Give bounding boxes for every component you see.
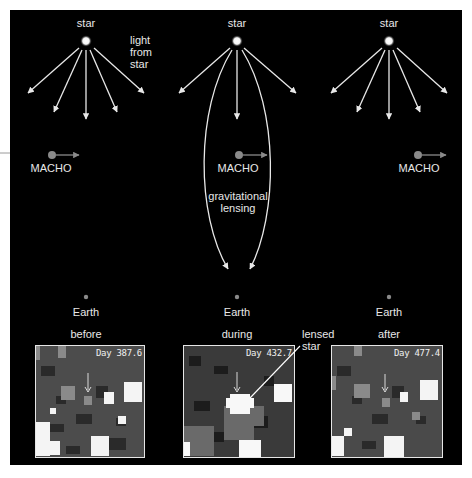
star-label-after: star xyxy=(373,17,405,30)
earth-icon xyxy=(84,295,88,299)
star-icon xyxy=(231,35,243,47)
light-from-star-note: light from star xyxy=(130,34,160,70)
phase-label-during: during xyxy=(211,328,263,341)
day-label-before: Day 387.6 xyxy=(96,348,142,358)
starfield-after xyxy=(332,346,442,457)
day-label-after: Day 477.4 xyxy=(394,348,440,358)
starfield-before xyxy=(36,346,144,457)
observation-image-before: Day 387.6 xyxy=(35,345,145,458)
earth-label-during: Earth xyxy=(217,306,257,319)
macho-icon xyxy=(235,151,243,159)
star-label-before: star xyxy=(70,17,102,30)
phase-label-before: before xyxy=(60,328,112,341)
phase-label-after: after xyxy=(363,328,415,341)
earth-label-after: Earth xyxy=(369,306,409,319)
observation-image-after: Day 477.4 xyxy=(331,345,443,458)
macho-label-after: MACHO xyxy=(394,162,444,175)
macho-icon xyxy=(48,151,56,159)
earth-icon xyxy=(387,295,391,299)
star-label-during: star xyxy=(221,17,253,30)
earth-icon xyxy=(235,295,239,299)
star-icon xyxy=(383,35,395,47)
macho-label-during: MACHO xyxy=(213,162,263,175)
day-label-during: Day 432.7 xyxy=(246,348,292,358)
macho-icon xyxy=(414,151,422,159)
star-icon xyxy=(80,35,92,47)
macho-label-before: MACHO xyxy=(26,162,76,175)
lensing-diagram: star light from star MACHO Earth before … xyxy=(0,0,472,478)
gravitational-lensing-note: gravitational lensing xyxy=(202,190,274,214)
observation-image-during: Day 432.7 xyxy=(183,345,295,458)
starfield-during xyxy=(184,346,294,457)
earth-label-before: Earth xyxy=(66,306,106,319)
